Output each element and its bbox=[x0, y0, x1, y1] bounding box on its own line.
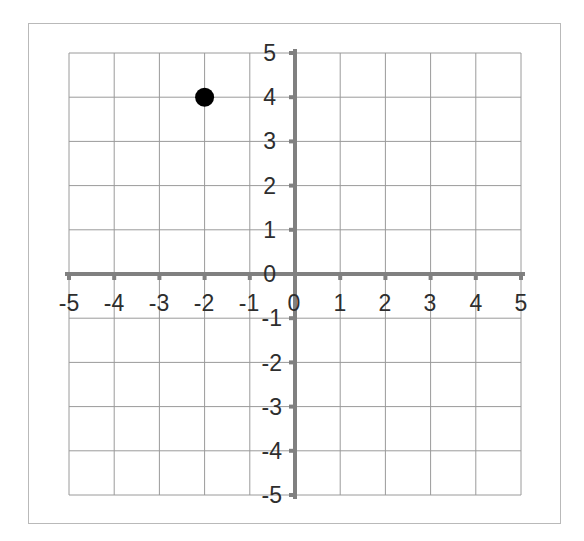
x-tick-label-3: 3 bbox=[424, 292, 437, 315]
coordinate-plane-figure: 5 4 3 2 1 0 -1 -2 -3 -4 -5 -5 -4 -3 -2 -… bbox=[0, 0, 584, 541]
y-tick-label-neg3: -3 bbox=[262, 396, 282, 419]
x-tick-label-4: 4 bbox=[470, 292, 483, 315]
y-tick-label-2: 2 bbox=[263, 175, 276, 198]
plot-area bbox=[0, 0, 584, 541]
x-tick-label-neg1: -1 bbox=[239, 292, 259, 315]
y-tick-label-0: 0 bbox=[263, 263, 276, 286]
x-tick-label-neg5: -5 bbox=[59, 292, 79, 315]
y-tick-label-4: 4 bbox=[263, 86, 276, 109]
x-tick-label-2: 2 bbox=[379, 292, 392, 315]
x-tick-label-neg3: -3 bbox=[149, 292, 169, 315]
y-tick-label-1: 1 bbox=[263, 219, 276, 242]
coordinate-grid bbox=[0, 0, 584, 541]
y-tick-label-neg1: -1 bbox=[262, 307, 282, 330]
x-tick-label-neg2: -2 bbox=[194, 292, 214, 315]
x-tick-label-1: 1 bbox=[334, 292, 347, 315]
y-tick-label-5: 5 bbox=[263, 42, 276, 65]
x-tick-label-neg4: -4 bbox=[104, 292, 124, 315]
y-tick-label-neg5: -5 bbox=[262, 484, 282, 507]
x-tick-label-5: 5 bbox=[515, 292, 528, 315]
y-tick-label-neg2: -2 bbox=[262, 352, 282, 375]
y-tick-label-3: 3 bbox=[263, 130, 276, 153]
data-point[interactable] bbox=[195, 88, 214, 107]
y-tick-label-neg4: -4 bbox=[262, 440, 282, 463]
origin-label: 0 bbox=[288, 292, 301, 315]
